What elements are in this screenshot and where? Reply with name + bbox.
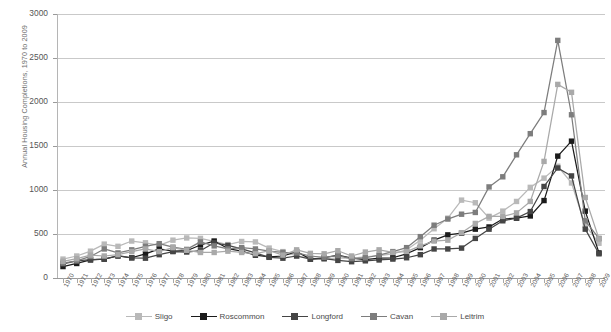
data-point-marker	[239, 239, 244, 244]
data-point-marker	[514, 199, 519, 204]
data-point-marker	[514, 210, 519, 215]
data-point-marker	[294, 247, 299, 252]
legend-marker	[200, 313, 207, 320]
data-point-marker	[335, 248, 340, 253]
series-cavan	[60, 38, 601, 266]
data-point-marker	[129, 249, 134, 254]
data-point-marker	[390, 256, 395, 261]
data-point-marker	[569, 90, 574, 95]
data-point-marker	[102, 253, 107, 258]
data-point-marker	[459, 230, 464, 235]
data-point-marker	[459, 245, 464, 250]
data-point-marker	[102, 241, 107, 246]
legend-marker	[291, 313, 298, 320]
data-point-marker	[569, 138, 574, 143]
data-point-marker	[143, 256, 148, 261]
data-point-marker	[225, 248, 230, 253]
data-point-marker	[157, 241, 162, 246]
data-point-marker	[308, 251, 313, 256]
data-point-marker	[541, 198, 546, 203]
data-point-marker	[445, 246, 450, 251]
data-point-marker	[541, 159, 546, 164]
data-point-marker	[473, 210, 478, 215]
data-point-marker	[486, 226, 491, 231]
legend-item-cavan[interactable]: Cavan	[361, 312, 413, 321]
data-point-marker	[473, 200, 478, 205]
data-point-marker	[211, 243, 216, 248]
data-point-marker	[376, 252, 381, 257]
data-point-marker	[129, 238, 134, 243]
data-point-marker	[418, 243, 423, 248]
series-longford	[60, 165, 601, 266]
data-point-marker	[102, 246, 107, 251]
data-point-marker	[376, 257, 381, 262]
data-point-marker	[569, 173, 574, 178]
data-point-marker	[239, 245, 244, 250]
data-point-marker	[363, 249, 368, 254]
legend-swatch-icon	[191, 312, 217, 321]
legend-item-sligo[interactable]: Sligo	[126, 312, 173, 321]
data-point-marker	[129, 255, 134, 260]
data-point-marker	[170, 237, 175, 242]
data-point-marker	[431, 238, 436, 243]
data-point-marker	[486, 184, 491, 189]
legend-swatch-icon	[282, 312, 308, 321]
data-point-marker	[596, 236, 601, 241]
data-point-marker	[170, 245, 175, 250]
data-point-marker	[555, 165, 560, 170]
data-point-marker	[253, 251, 258, 256]
data-point-marker	[500, 214, 505, 219]
data-point-marker	[486, 214, 491, 219]
data-point-marker	[528, 185, 533, 190]
data-point-marker	[541, 184, 546, 189]
data-point-marker	[239, 250, 244, 255]
data-point-marker	[143, 246, 148, 251]
data-point-marker	[266, 248, 271, 253]
data-point-marker	[514, 215, 519, 220]
data-point-marker	[555, 153, 560, 158]
data-point-marker	[473, 221, 478, 226]
legend-item-leitrim[interactable]: Leitrim	[431, 312, 484, 321]
data-point-marker	[445, 216, 450, 221]
data-point-marker	[404, 255, 409, 260]
legend-item-roscommon[interactable]: Roscommon	[191, 312, 265, 321]
data-point-marker	[583, 218, 588, 223]
legend-label: Cavan	[390, 312, 413, 321]
legend-marker	[135, 313, 142, 320]
data-point-marker	[335, 258, 340, 263]
data-point-marker	[583, 195, 588, 200]
data-point-marker	[184, 248, 189, 253]
series-layer	[0, 0, 610, 300]
data-point-marker	[60, 259, 65, 264]
series-leitrim	[60, 82, 601, 264]
data-point-marker	[321, 251, 326, 256]
data-point-marker	[390, 250, 395, 255]
data-point-marker	[418, 234, 423, 239]
data-point-marker	[514, 152, 519, 157]
data-point-marker	[500, 174, 505, 179]
data-point-marker	[541, 175, 546, 180]
data-point-marker	[184, 235, 189, 240]
series-line	[63, 84, 599, 261]
data-point-marker	[349, 253, 354, 258]
data-point-marker	[115, 244, 120, 249]
legend-swatch-icon	[361, 312, 387, 321]
data-point-marker	[459, 197, 464, 202]
series-line	[63, 40, 599, 263]
data-point-marker	[528, 131, 533, 136]
data-point-marker	[404, 249, 409, 254]
data-point-marker	[88, 252, 93, 257]
data-point-marker	[363, 255, 368, 260]
data-point-marker	[473, 236, 478, 241]
data-point-marker	[74, 256, 79, 261]
legend-item-longford[interactable]: Longford	[282, 312, 343, 321]
legend-swatch-icon	[126, 312, 152, 321]
data-point-marker	[555, 38, 560, 43]
data-point-marker	[555, 82, 560, 87]
legend-marker	[440, 313, 447, 320]
data-point-marker	[569, 112, 574, 117]
legend-label: Sligo	[155, 312, 173, 321]
data-point-marker	[445, 232, 450, 237]
data-point-marker	[459, 212, 464, 217]
